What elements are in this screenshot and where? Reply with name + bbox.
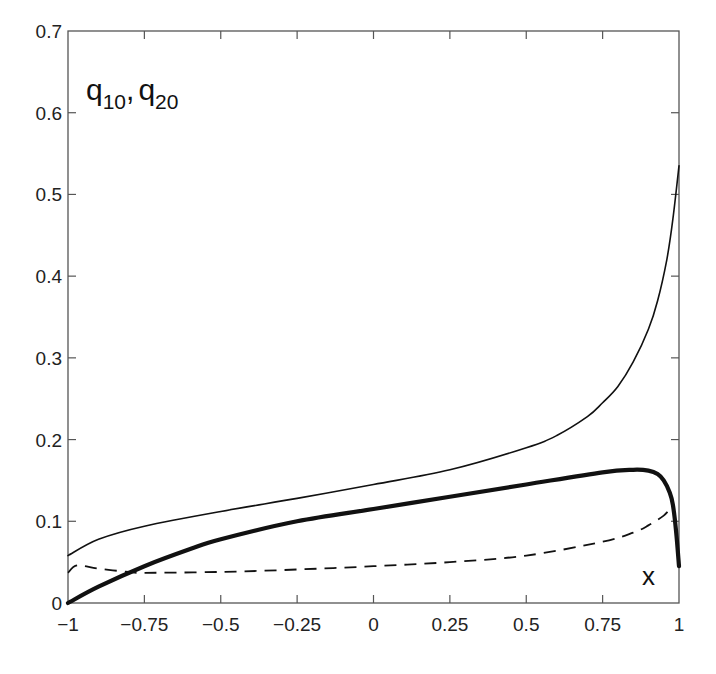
series-thin-solid-line [68,166,679,556]
x-tick-label: 0.25 [431,614,468,635]
plot-frame [68,31,679,603]
x-axis-label: x [642,561,655,591]
line-chart: −1−0.75−0.5−0.2500.250.50.751 00.10.20.3… [0,0,716,674]
y-axis-label: q10,q20 [86,73,178,113]
y-tick-label: 0.2 [36,430,62,451]
series-thick-solid-line [68,470,679,603]
y-tick-label: 0 [51,593,62,614]
y-tick-label: 0.4 [36,266,63,287]
x-tick-label: −0.25 [273,614,321,635]
y-axis-ticks: 00.10.20.30.40.50.60.7 [36,21,679,614]
y-tick-label: 0.5 [36,184,62,205]
x-tick-label: 1 [674,614,685,635]
x-tick-label: 0.5 [513,614,539,635]
x-tick-label: −0.75 [120,614,168,635]
x-tick-label: 0 [368,614,379,635]
x-tick-label: −0.5 [202,614,240,635]
y-tick-label: 0.1 [36,511,62,532]
x-tick-label: −1 [57,614,79,635]
y-tick-label: 0.3 [36,348,62,369]
x-tick-label: 0.75 [584,614,621,635]
series-dashed-line [68,509,670,573]
y-tick-label: 0.7 [36,21,62,42]
data-series [68,166,679,603]
y-tick-label: 0.6 [36,103,62,124]
